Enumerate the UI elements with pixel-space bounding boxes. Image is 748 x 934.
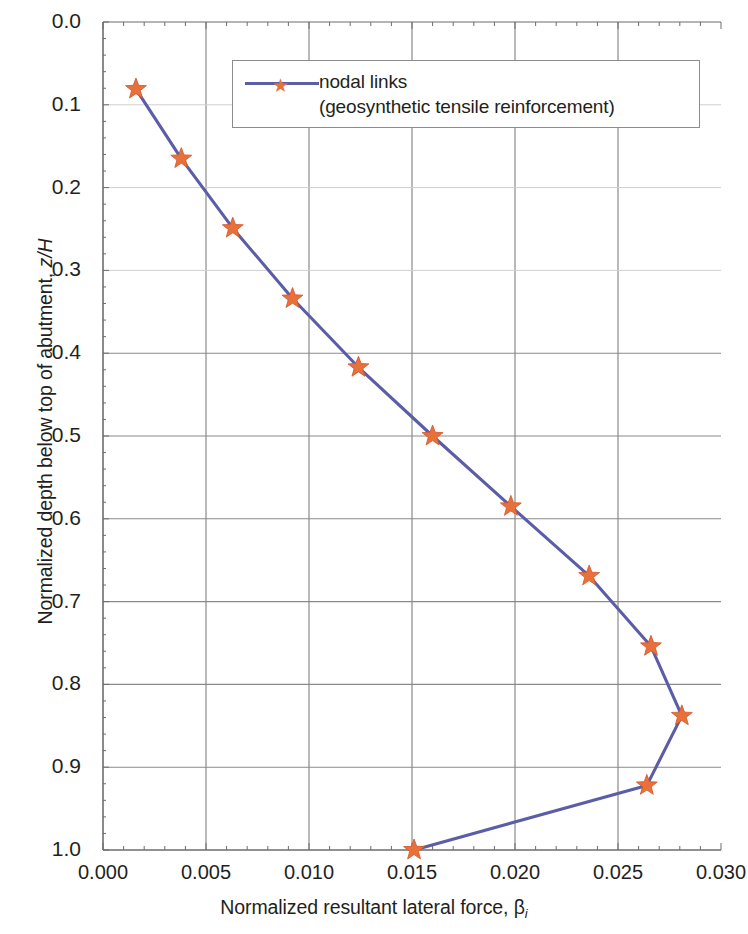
legend-labels: nodal links (geosynthetic tensile reinfo… [319, 69, 615, 119]
plot-area [0, 0, 748, 934]
legend-label-line2: (geosynthetic tensile reinforcement) [319, 94, 615, 119]
data-series [125, 78, 692, 859]
data-point-marker [404, 839, 425, 859]
star-marker-icon: ★ [272, 76, 289, 95]
data-point-marker [671, 705, 692, 725]
gridlines [103, 22, 721, 850]
chart-figure: Normalized depth below top of abutment, … [0, 0, 748, 934]
data-point-marker [125, 78, 146, 98]
legend-swatch: ★ [245, 71, 319, 97]
data-point-marker [636, 774, 657, 794]
legend: ★ nodal links (geosynthetic tensile rein… [232, 60, 700, 128]
legend-entry: ★ nodal links (geosynthetic tensile rein… [245, 69, 615, 119]
data-point-marker [171, 148, 192, 168]
legend-label-line1: nodal links [319, 69, 615, 94]
